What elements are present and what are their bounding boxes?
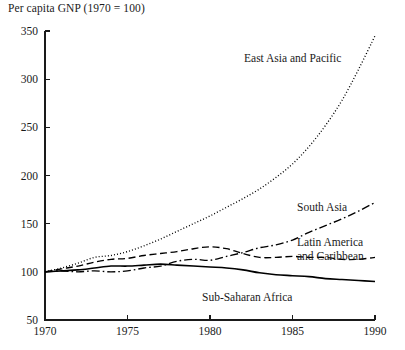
series-label-0: East Asia and Pacific	[244, 52, 341, 64]
y-tick-label: 200	[21, 170, 39, 182]
series-label-2: and Caribbean	[297, 250, 364, 262]
chart-figure: Per capita GNP (1970 = 100) 501001502002…	[0, 0, 405, 350]
series-label-1: South Asia	[297, 201, 347, 213]
x-tick-label: 1970	[34, 325, 57, 337]
axis-spine	[45, 31, 375, 320]
series-label-2: Latin America	[297, 236, 363, 248]
chart-series-labels: East Asia and PacificSouth AsiaLatin Ame…	[202, 52, 364, 303]
chart-plot-area: 50100150200250300350 1970197519801985199…	[0, 0, 405, 350]
y-tick-label: 250	[21, 121, 39, 133]
y-tick-label: 350	[21, 25, 39, 37]
x-axis-tick-labels: 19701975198019851990	[34, 325, 387, 337]
series-label-3: Sub-Saharan Africa	[202, 291, 292, 303]
series-line-3	[45, 264, 375, 281]
y-tick-label: 300	[21, 73, 39, 85]
y-tick-label: 150	[21, 218, 39, 230]
x-tick-label: 1990	[364, 325, 387, 337]
y-axis-tick-labels: 50100150200250300350	[21, 25, 39, 326]
y-tick-label: 100	[21, 266, 39, 278]
x-tick-label: 1980	[199, 325, 222, 337]
x-tick-label: 1975	[116, 325, 139, 337]
x-axis-ticks	[45, 315, 375, 320]
x-tick-label: 1985	[281, 325, 304, 337]
y-axis-ticks	[45, 31, 50, 320]
